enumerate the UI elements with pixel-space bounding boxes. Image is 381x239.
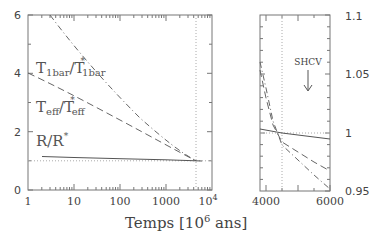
left-y-tick-label: 0 xyxy=(14,184,21,197)
curve-t1bar-left xyxy=(50,15,196,161)
curve-teff-right xyxy=(260,70,330,171)
left-x-tick-label: 1000 xyxy=(152,195,180,208)
right-ticks xyxy=(260,15,330,191)
right-x-tick-label: 6000 xyxy=(316,195,344,208)
right-panel: SHCV 1.1 1.05 1 0.95 4000 6000 xyxy=(252,10,370,208)
right-x-tick-label: 4000 xyxy=(252,195,280,208)
right-y-tick-label: 1 xyxy=(345,127,352,140)
left-y-tick-label: 2 xyxy=(14,126,21,139)
left-panel: 0 2 4 6 1 10 100 1000 104 T1bar/T*1bar T… xyxy=(14,9,218,208)
figure: 0 2 4 6 1 10 100 1000 104 T1bar/T*1bar T… xyxy=(0,0,381,239)
label-r: R/R* xyxy=(36,131,69,150)
arrow-down-icon xyxy=(304,70,312,91)
left-y-ticks xyxy=(28,15,212,190)
curve-r-right xyxy=(260,129,330,139)
left-y-tick-label: 6 xyxy=(14,9,21,22)
left-x-tick-label: 1 xyxy=(25,195,32,208)
curve-t1bar-right xyxy=(260,62,330,189)
label-t1bar: T1bar/T*1bar xyxy=(36,56,106,78)
annotation-shcv: SHCV xyxy=(294,57,322,67)
left-x-tick-label: 104 xyxy=(198,193,217,208)
left-x-tick-label: 100 xyxy=(110,195,131,208)
left-y-tick-label: 4 xyxy=(14,67,21,80)
left-x-tick-label: 10 xyxy=(67,195,81,208)
right-y-tick-label: 1.05 xyxy=(345,68,370,81)
right-y-tick-label: 1.1 xyxy=(345,10,363,23)
right-plot-frame xyxy=(260,15,330,191)
left-plot-frame xyxy=(28,15,212,190)
right-y-tick-label: 0.95 xyxy=(345,185,370,198)
x-axis-label: Temps [106 ans] xyxy=(125,213,247,232)
